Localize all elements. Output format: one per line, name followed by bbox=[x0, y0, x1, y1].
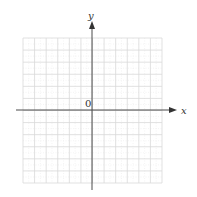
y-axis-arrow-icon bbox=[89, 21, 95, 29]
origin-label: 0 bbox=[85, 98, 91, 109]
x-axis-arrow-icon bbox=[169, 107, 177, 113]
coordinate-plane: x y 0 bbox=[0, 0, 197, 197]
y-axis-label: y bbox=[87, 10, 94, 21]
x-axis-label: x bbox=[181, 105, 187, 116]
